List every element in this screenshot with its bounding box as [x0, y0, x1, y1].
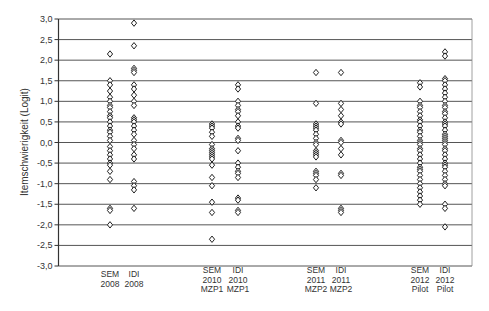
- diamond-marker: [209, 236, 214, 242]
- x-category-label: MZP2: [330, 284, 353, 294]
- diamond-marker: [131, 205, 136, 211]
- x-category-label: IDI: [336, 265, 347, 275]
- y-tick-label: -3,0: [37, 261, 53, 271]
- y-tick-label: 3,0: [40, 14, 53, 24]
- x-category-label: 2008: [101, 279, 120, 289]
- y-tick-label: -2,5: [37, 240, 53, 250]
- x-category-label: 2012: [411, 275, 430, 285]
- y-tick-label: 2,0: [40, 55, 53, 65]
- diamond-marker: [235, 174, 240, 180]
- diamond-marker: [313, 176, 318, 182]
- x-category-label: 2010: [203, 275, 222, 285]
- x-category-label: 2011: [307, 275, 326, 285]
- x-category-label: SEM: [101, 269, 119, 279]
- diamond-marker: [107, 168, 112, 174]
- x-category-label: IDI: [233, 265, 244, 275]
- diamond-marker: [442, 53, 447, 59]
- x-category-label: IDI: [440, 265, 451, 275]
- diamond-marker: [209, 174, 214, 180]
- y-tick-label: -0,5: [37, 158, 53, 168]
- diamond-marker: [131, 156, 136, 162]
- y-tick-label: -1,5: [37, 199, 53, 209]
- data-points: [107, 20, 447, 243]
- diamond-marker: [313, 69, 318, 75]
- diamond-marker: [131, 20, 136, 26]
- y-tick-label: 1,0: [40, 96, 53, 106]
- diamond-marker: [209, 133, 214, 139]
- diamond-marker: [131, 43, 136, 49]
- x-category-label: MZP2: [305, 284, 328, 294]
- diamond-marker: [442, 205, 447, 211]
- x-category-label: SEM: [203, 265, 221, 275]
- x-axis-labels: SEM2008IDI2008SEM2010MZP1IDI2010MZP1SEM2…: [101, 265, 455, 294]
- x-category-label: MZP1: [227, 284, 250, 294]
- diamond-marker: [107, 176, 112, 182]
- x-category-label: Pilot: [412, 284, 429, 294]
- x-category-label: SEM: [411, 265, 429, 275]
- diamond-marker: [209, 209, 214, 215]
- diamond-marker: [417, 84, 422, 90]
- x-category-label: Pilot: [437, 284, 454, 294]
- y-tick-label: 1,5: [40, 76, 53, 86]
- y-axis-ticks: 3,02,52,01,51,00,50,0-0,5-1,0-1,5-2,0-2,…: [37, 14, 53, 271]
- x-category-label: 2011: [332, 275, 351, 285]
- diamond-marker: [338, 152, 343, 158]
- x-category-label: IDI: [129, 269, 140, 279]
- grid-lines: [55, 19, 473, 266]
- x-category-label: MZP1: [201, 284, 224, 294]
- diamond-marker: [417, 201, 422, 207]
- diamond-marker: [313, 185, 318, 191]
- y-tick-label: 0,5: [40, 117, 53, 127]
- diamond-marker: [235, 148, 240, 154]
- x-category-label: 2010: [229, 275, 248, 285]
- diamond-marker: [131, 187, 136, 193]
- diamond-marker: [107, 222, 112, 228]
- item-difficulty-chart: 3,02,52,01,51,00,50,0-0,5-1,0-1,5-2,0-2,…: [0, 0, 489, 311]
- diamond-marker: [235, 86, 240, 92]
- x-category-label: 2012: [436, 275, 455, 285]
- diamond-marker: [131, 102, 136, 108]
- x-category-label: 2008: [125, 279, 144, 289]
- y-axis-label: Itemschwierigkeit (Logit): [19, 88, 30, 196]
- y-tick-label: 2,5: [40, 35, 53, 45]
- diamond-marker: [107, 51, 112, 57]
- x-category-label: SEM: [307, 265, 325, 275]
- y-tick-label: 0,0: [40, 138, 53, 148]
- y-tick-label: -2,0: [37, 220, 53, 230]
- diamond-marker: [338, 69, 343, 75]
- y-tick-label: -1,0: [37, 179, 53, 189]
